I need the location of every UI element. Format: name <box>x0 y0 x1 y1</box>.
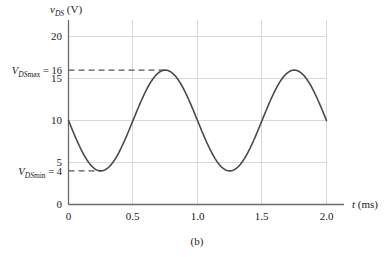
ytick-label-10: 10 <box>51 114 63 126</box>
y-axis-title-sub: DS <box>54 9 64 18</box>
xtick-label-2p0: 2.0 <box>320 210 334 222</box>
vdsmax-sub-rm: max <box>27 70 40 79</box>
xtick-label-0: 0 <box>66 210 72 222</box>
vdsmax-sub: DS <box>17 70 27 79</box>
figure-container: 20 15 10 5 0 VDSmax = 16 VDSmin = 4 0 0.… <box>0 0 386 257</box>
ytick-label-20: 20 <box>51 30 63 42</box>
xtick-label-1p0: 1.0 <box>191 210 205 222</box>
xtick-label-0p5: 0.5 <box>126 210 140 222</box>
y-axis-title-unit: (V) <box>67 3 83 16</box>
vdsmax-eq: = 16 <box>40 65 62 76</box>
figure-caption: (b) <box>191 235 204 248</box>
vdsmin-eq: = 4 <box>46 166 63 177</box>
x-axis-title: t (ms) <box>352 198 378 211</box>
vdsmin-sub-rm: min <box>34 171 46 180</box>
chart-svg: 20 15 10 5 0 VDSmax = 16 VDSmin = 4 0 0.… <box>0 0 386 257</box>
vdsmin-sub: DS <box>24 171 34 180</box>
x-axis-title-unit: (ms) <box>358 198 379 211</box>
xtick-label-1p5: 1.5 <box>255 210 269 222</box>
ytick-label-0: 0 <box>57 198 63 210</box>
